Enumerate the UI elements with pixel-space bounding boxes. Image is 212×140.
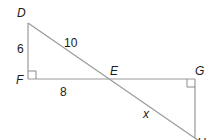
length-label-de: 10 bbox=[64, 36, 78, 50]
point-label-d: D bbox=[17, 6, 26, 20]
point-label-e: E bbox=[110, 64, 119, 78]
point-label-h: H bbox=[197, 136, 206, 140]
length-label-df: 6 bbox=[17, 42, 24, 56]
point-label-g: G bbox=[195, 64, 204, 78]
point-label-f: F bbox=[16, 73, 24, 87]
geometry-diagram: D 6 10 F 8 E G x H bbox=[0, 0, 212, 140]
length-label-fe: 8 bbox=[60, 85, 67, 99]
segment-dh bbox=[28, 23, 202, 140]
right-angle-marker-f bbox=[28, 71, 36, 79]
right-angle-marker-g bbox=[187, 79, 195, 87]
length-label-eh: x bbox=[142, 107, 150, 121]
